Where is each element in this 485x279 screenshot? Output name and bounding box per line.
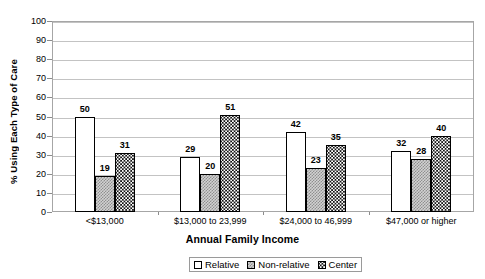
chart-legend: RelativeNon-relativeCenter [189, 257, 362, 272]
bar: 51 [220, 115, 240, 212]
legend-item: Relative [194, 260, 239, 270]
bar-value-label: 35 [331, 133, 341, 142]
bar-value-label: 28 [416, 147, 426, 156]
bar-group: 501931 [52, 21, 158, 212]
y-tick-label: 30 [36, 150, 46, 159]
bar-value-label: 23 [311, 156, 321, 165]
bar-value-label: 20 [205, 162, 215, 171]
bar: 29 [180, 157, 200, 212]
x-tick-mark [158, 212, 159, 215]
bar: 35 [326, 145, 346, 212]
y-tick-label: 80 [36, 55, 46, 64]
y-tick-label: 70 [36, 74, 46, 83]
y-tick-label: 60 [36, 93, 46, 102]
chart-title [0, 0, 485, 6]
bar: 28 [411, 159, 431, 212]
legend-label: Non-relative [258, 260, 309, 270]
bar-series-container: 501931292051422335322840 [52, 21, 474, 212]
x-tick-mark [369, 212, 370, 215]
y-tick-label: 20 [36, 169, 46, 178]
y-tick-label: 100 [31, 17, 46, 26]
x-tick-mark [263, 212, 264, 215]
legend-item: Non-relative [247, 260, 309, 270]
x-tick-label: <$13,000 [86, 216, 124, 226]
y-tick-label: 50 [36, 112, 46, 121]
bar-group: 292051 [158, 21, 264, 212]
legend-swatch [247, 261, 255, 269]
legend-swatch [194, 261, 202, 269]
legend-item: Center [318, 260, 358, 270]
bar-value-label: 29 [185, 145, 195, 154]
bar-group: 322840 [369, 21, 475, 212]
y-tick-label: 0 [41, 208, 46, 217]
bar-value-label: 31 [120, 141, 130, 150]
bar-group: 422335 [263, 21, 369, 212]
bar-value-label: 51 [225, 103, 235, 112]
bar: 31 [115, 153, 135, 212]
bar: 23 [306, 168, 326, 212]
legend-swatch [318, 261, 326, 269]
legend-label: Center [329, 260, 358, 270]
y-tick-label: 90 [36, 36, 46, 45]
x-tick-label: $24,000 to 46,999 [279, 216, 352, 226]
x-axis-title: Annual Family Income [0, 233, 485, 245]
bar-value-label: 32 [396, 139, 406, 148]
bar-value-label: 40 [436, 124, 446, 133]
y-tick-label: 10 [36, 188, 46, 197]
legend-label: Relative [205, 260, 239, 270]
bar-value-label: 50 [80, 105, 90, 114]
bar: 19 [95, 176, 115, 212]
x-tick-label: $47,000 or higher [386, 216, 457, 226]
bar: 42 [286, 132, 306, 212]
y-tick-label: 40 [36, 131, 46, 140]
bar: 40 [431, 136, 451, 212]
bar: 32 [391, 151, 411, 212]
y-axis-title: % Using Each Type of Care [6, 34, 20, 210]
bar-value-label: 19 [100, 164, 110, 173]
bar-value-label: 42 [291, 120, 301, 129]
y-axis-tick-labels: 1009080706050403020100 [22, 21, 50, 212]
bar: 20 [200, 174, 220, 212]
bar: 50 [75, 117, 95, 213]
x-axis-tick-labels: <$13,000$13,000 to 23,999$24,000 to 46,9… [52, 216, 474, 228]
x-tick-label: $13,000 to 23,999 [174, 216, 247, 226]
